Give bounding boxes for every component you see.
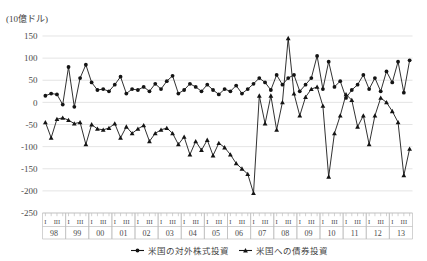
x-axis-year-label: 08 <box>281 229 289 238</box>
x-axis-quarter-label: III <box>216 218 223 225</box>
data-point-marker-circle <box>136 88 140 92</box>
x-axis-quarter-label: I <box>160 218 162 225</box>
x-axis-year-label: 10 <box>328 229 336 238</box>
data-point-marker-triangle <box>367 142 372 146</box>
x-axis-quarter-label: I <box>322 218 324 225</box>
data-point-marker-triangle <box>49 135 54 139</box>
data-point-marker-triangle <box>274 127 279 131</box>
data-point-marker-circle <box>367 87 371 91</box>
data-point-marker-circle <box>361 73 365 77</box>
x-axis-quarter-label: I <box>368 218 370 225</box>
data-point-marker-triangle <box>205 138 210 142</box>
data-point-marker-triangle <box>396 120 401 124</box>
legend-item-1[interactable]: 米国の対外株式投資 <box>131 246 229 256</box>
x-axis-quarter-label: III <box>146 218 153 225</box>
x-axis-quarter-label: III <box>169 218 176 225</box>
data-point-marker-circle <box>228 89 232 93</box>
x-axis-quarter-label: III <box>123 218 130 225</box>
data-point-marker-circle <box>107 89 111 93</box>
data-point-marker-circle <box>390 81 394 85</box>
data-point-marker-triangle <box>193 139 198 143</box>
x-axis-year-label: 03 <box>166 229 174 238</box>
data-point-marker-triangle <box>286 36 291 40</box>
x-axis-year-label: 02 <box>143 229 151 238</box>
data-point-marker-circle <box>78 76 82 80</box>
x-axis-quarter-label: I <box>299 218 301 225</box>
x-axis-quarter-label: I <box>206 218 208 225</box>
data-point-marker-circle <box>182 88 186 92</box>
data-point-marker-triangle <box>141 123 146 127</box>
data-point-marker-circle <box>176 92 180 96</box>
x-axis-quarter-label: I <box>345 218 347 225</box>
data-point-marker-circle <box>171 74 175 78</box>
y-axis-tick-label: -200 <box>21 186 38 196</box>
x-axis-quarter-label: III <box>262 218 269 225</box>
x-axis-quarter-label: III <box>377 218 384 225</box>
x-axis-quarter-label: III <box>308 218 315 225</box>
data-point-marker-triangle <box>112 121 117 125</box>
data-point-marker-circle <box>142 85 146 89</box>
y-axis-tick-label: 50 <box>29 75 39 85</box>
data-point-marker-circle <box>315 54 319 58</box>
x-axis: IIII98IIII99IIII00IIII01IIII02IIII03IIII… <box>43 213 413 239</box>
data-point-marker-triangle <box>355 124 360 128</box>
series-2 <box>43 36 412 195</box>
x-axis-year-label: 00 <box>96 229 104 238</box>
series-line <box>45 56 409 107</box>
chart-legend[interactable]: 米国の対外株式投資米国への債券投資 <box>131 246 328 256</box>
data-point-marker-triangle <box>332 131 337 135</box>
data-point-marker-circle <box>188 82 192 86</box>
x-axis-quarter-label: I <box>44 218 46 225</box>
data-point-marker-circle <box>373 76 377 80</box>
data-point-marker-circle <box>84 63 88 67</box>
x-axis-quarter-label: III <box>331 218 338 225</box>
legend-item-2[interactable]: 米国への債券投資 <box>239 246 328 256</box>
x-axis-quarter-label: III <box>77 218 84 225</box>
data-point-marker-triangle <box>378 96 383 100</box>
data-point-marker-circle <box>49 92 53 96</box>
y-axis-tick-label: 100 <box>24 53 38 63</box>
data-point-marker-triangle <box>326 174 331 178</box>
data-point-marker-triangle <box>297 113 302 117</box>
data-point-marker-circle <box>298 89 302 93</box>
x-axis-quarter-label: I <box>114 218 116 225</box>
data-point-marker-circle <box>292 73 296 77</box>
data-point-marker-circle <box>113 83 117 87</box>
data-point-marker-triangle <box>124 124 129 128</box>
data-point-marker-triangle <box>361 113 366 117</box>
series-line <box>45 38 409 193</box>
data-point-marker-circle <box>136 249 140 253</box>
x-axis-quarter-label: I <box>67 218 69 225</box>
x-axis-year-label: 11 <box>351 229 359 238</box>
legend-label: 米国の対外株式投資 <box>148 246 229 256</box>
series-1 <box>43 54 411 109</box>
data-point-marker-circle <box>194 85 198 89</box>
data-point-marker-circle <box>55 93 59 97</box>
data-point-marker-triangle <box>257 93 262 97</box>
data-point-marker-triangle <box>135 127 140 131</box>
data-point-marker-circle <box>263 81 267 85</box>
data-point-marker-triangle <box>407 146 412 150</box>
data-point-marker-circle <box>90 81 94 85</box>
data-point-marker-circle <box>165 79 169 83</box>
data-point-marker-circle <box>350 88 354 92</box>
x-axis-year-label: 07 <box>258 229 266 238</box>
data-point-marker-circle <box>96 88 100 92</box>
y-axis-tick-label: -150 <box>21 164 38 174</box>
data-point-marker-circle <box>309 76 313 80</box>
chart-plot-area: 150100500-50-100-150-200-250 IIII98IIII9… <box>0 0 427 261</box>
data-point-marker-triangle <box>390 109 395 113</box>
data-point-marker-circle <box>333 85 337 89</box>
data-point-marker-circle <box>61 103 65 107</box>
data-point-marker-circle <box>338 79 342 83</box>
data-point-marker-triangle <box>78 120 83 124</box>
data-point-marker-circle <box>234 84 238 88</box>
data-point-marker-circle <box>72 105 76 109</box>
data-point-marker-circle <box>402 91 406 95</box>
data-point-marker-triangle <box>164 126 169 130</box>
data-point-marker-triangle <box>292 91 297 95</box>
y-axis-tick-label: -50 <box>26 120 38 130</box>
data-point-marker-triangle <box>268 93 273 97</box>
data-point-marker-triangle <box>320 104 325 108</box>
x-axis-quarter-label: I <box>137 218 139 225</box>
